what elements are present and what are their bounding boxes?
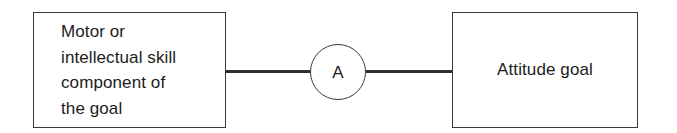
node-relation-circle-label: A [332, 64, 343, 81]
node-relation-circle[interactable]: A [310, 44, 366, 100]
connector-relation-to-attitude-goal [366, 70, 453, 73]
node-attitude-goal[interactable]: Attitude goal [452, 12, 638, 128]
node-skill-component-label: Motor or intellectual skill component of… [61, 19, 176, 121]
connector-skill-to-relation [225, 70, 311, 73]
node-attitude-goal-label: Attitude goal [497, 57, 593, 83]
diagram-canvas: Motor or intellectual skill component of… [0, 0, 677, 133]
node-skill-component[interactable]: Motor or intellectual skill component of… [33, 12, 226, 128]
